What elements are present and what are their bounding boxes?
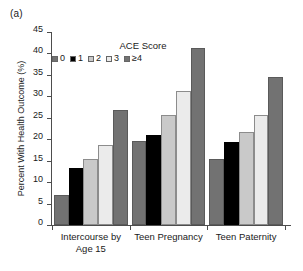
legend-swatch-ace-2 (88, 56, 94, 62)
panel-label: (a) (10, 8, 23, 20)
bar (161, 115, 176, 225)
bar (254, 115, 269, 225)
y-axis-tick-label: 25 (33, 111, 43, 120)
y-axis-tick-mark (47, 204, 51, 205)
y-axis-tick-label: 35 (33, 68, 43, 77)
y-axis-tick-mark (47, 161, 51, 162)
x-axis-group-label-line: Age 15 (52, 243, 130, 255)
x-axis-tick-mark (52, 225, 53, 230)
x-axis-group-label-line: Teen Paternity (207, 231, 285, 243)
y-axis-tick-mark (47, 32, 51, 33)
x-axis-tick-mark (130, 225, 131, 230)
x-axis-group-label: Teen Paternity (207, 231, 285, 243)
x-axis-group-label-line: Teen Pregnancy (130, 231, 208, 243)
legend-item: 0 (52, 54, 65, 63)
y-axis-tick-label: 20 (33, 132, 43, 141)
legend-swatch-ace-3 (106, 56, 112, 62)
figure-panel-a: (a) Percent With Health Outcome (%) 0510… (0, 0, 303, 271)
bar (268, 77, 283, 225)
y-axis-tick-label: 0 (38, 218, 43, 227)
x-axis-line (51, 225, 291, 226)
x-axis-group-label: Teen Pregnancy (130, 231, 208, 243)
bar (113, 110, 128, 225)
legend-item: 2 (88, 54, 101, 63)
legend-title: ACE Score (82, 40, 204, 51)
y-axis-tick-mark (47, 96, 51, 97)
bar (224, 142, 239, 225)
legend-item: ≥4 (124, 54, 142, 63)
y-axis-tick-label: 40 (33, 46, 43, 55)
y-axis-tick-label: 5 (38, 197, 43, 206)
y-axis-tick-mark (47, 75, 51, 76)
y-axis-tick-mark (47, 182, 51, 183)
legend-item-label: 0 (60, 54, 65, 63)
bar (239, 132, 254, 225)
legend-item-label: 2 (96, 54, 101, 63)
y-axis-tick-mark (47, 118, 51, 119)
bar (69, 168, 84, 225)
y-axis-tick-label: 15 (33, 154, 43, 163)
bar (83, 159, 98, 225)
bar (132, 141, 147, 225)
legend-item: 3 (106, 54, 119, 63)
bar (209, 159, 224, 225)
legend-item-label: ≥4 (132, 54, 142, 63)
legend-swatch-ace-4plus (124, 56, 130, 62)
bar (54, 195, 69, 225)
x-axis-tick-mark (285, 225, 286, 230)
x-axis-group-label: Intercourse byAge 15 (52, 231, 130, 254)
bar (98, 145, 113, 225)
y-axis-tick-label: 30 (33, 89, 43, 98)
legend-item-label: 3 (114, 54, 119, 63)
y-axis-title: Percent With Health Outcome (%) (14, 32, 28, 225)
legend: ACE Score 0123≥4 (52, 40, 204, 63)
legend-swatch-ace-0 (52, 56, 58, 62)
bar (191, 48, 206, 225)
x-axis-tick-mark (207, 225, 208, 230)
legend-item-label: 1 (78, 54, 83, 63)
y-axis-tick-mark (47, 53, 51, 54)
bar (176, 91, 191, 225)
legend-swatch-ace-1 (70, 56, 76, 62)
legend-items: 0123≥4 (52, 54, 204, 63)
y-axis-tick-label: 10 (33, 175, 43, 184)
legend-item: 1 (70, 54, 83, 63)
y-axis-tick-mark (47, 139, 51, 140)
bar (146, 135, 161, 225)
x-axis-group-label-line: Intercourse by (52, 231, 130, 243)
y-axis-tick-label: 45 (33, 25, 43, 34)
y-axis-tick-mark (47, 225, 51, 226)
